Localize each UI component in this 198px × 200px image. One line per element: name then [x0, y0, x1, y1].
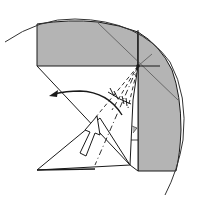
origami-diagram: [0, 0, 198, 200]
pivot-point: [136, 64, 140, 68]
arrow-head-icon: [49, 90, 58, 97]
right-flap: [138, 32, 181, 171]
front-triangle: [37, 118, 130, 170]
valley-fold-line: [95, 66, 138, 118]
top-flap: [37, 21, 138, 66]
bottom-edge: [37, 169, 95, 170]
diagram-canvas: [0, 0, 198, 200]
